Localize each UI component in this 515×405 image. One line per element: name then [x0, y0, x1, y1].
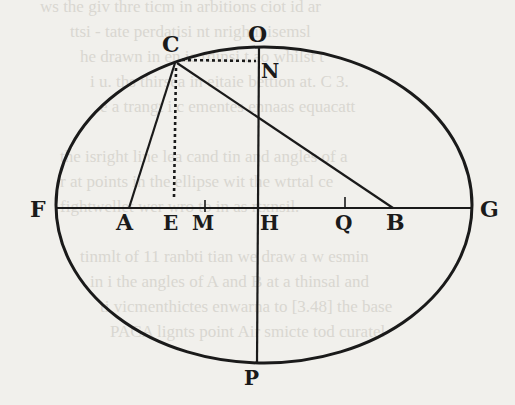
ellipse-outline [56, 47, 472, 363]
segment-CE-dotted [174, 68, 176, 197]
label-E: E [163, 211, 178, 235]
label-H: H [260, 211, 279, 235]
label-F: F [30, 196, 46, 222]
label-M: M [192, 211, 214, 235]
label-G: G [480, 196, 499, 222]
label-A: A [115, 209, 134, 235]
segment-CN-dotted [182, 60, 256, 61]
segment-CB [177, 63, 393, 208]
segment-NP [257, 48, 259, 362]
label-B: B [386, 209, 405, 235]
ellipse-diagram: O C N F A E M H Q B G P [0, 0, 515, 405]
label-N: N [261, 59, 279, 83]
label-O: O [248, 21, 267, 47]
label-Q: Q [335, 211, 352, 235]
segment-CA [129, 63, 175, 208]
label-C: C [162, 31, 180, 57]
label-P: P [244, 366, 259, 390]
